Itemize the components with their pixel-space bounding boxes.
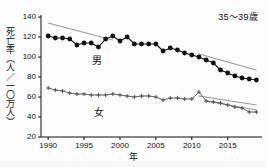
- data-point-female: [211, 100, 215, 104]
- mortality-rate-chart: 死亡率（人／一〇万人） 年 35〜39歳 男 女 204060801001201…: [0, 0, 266, 167]
- data-point-male: [46, 34, 51, 39]
- data-point-male: [103, 37, 108, 42]
- data-point-male: [96, 45, 101, 50]
- data-point-male: [204, 58, 209, 63]
- data-point-female: [53, 88, 57, 92]
- data-point-male: [247, 77, 252, 82]
- data-point-male: [240, 76, 245, 81]
- data-point-male: [232, 74, 237, 79]
- y-tick-label: 100: [14, 52, 36, 61]
- data-point-male: [211, 61, 216, 66]
- data-point-female: [96, 93, 100, 97]
- data-point-male: [82, 41, 87, 46]
- data-point-male: [153, 42, 158, 47]
- data-point-female: [60, 89, 64, 93]
- data-point-male: [146, 42, 151, 47]
- data-point-male: [60, 36, 65, 41]
- y-tick-label: 120: [14, 32, 36, 41]
- series-line-male: [48, 36, 256, 80]
- x-tick-label: 2005: [143, 141, 169, 150]
- data-point-female: [82, 92, 86, 96]
- page-edge-artifact: [0, 161, 266, 167]
- data-point-female: [125, 94, 129, 98]
- data-point-female: [132, 95, 136, 99]
- data-point-female: [154, 95, 158, 99]
- data-point-female: [168, 96, 172, 100]
- data-point-male: [218, 68, 223, 73]
- x-tick-label: 2015: [215, 141, 241, 150]
- data-point-female: [139, 94, 143, 98]
- data-point-male: [67, 37, 72, 42]
- y-tick-label: 60: [14, 92, 36, 101]
- data-point-female: [111, 92, 115, 96]
- data-point-female: [75, 92, 79, 96]
- data-point-female: [104, 93, 108, 97]
- y-tick-label: 20: [14, 132, 36, 141]
- trend-line-male-trend-late: [199, 54, 256, 70]
- y-tick-label: 140: [14, 12, 36, 21]
- x-tick-label: 2010: [179, 141, 205, 150]
- data-point-male: [89, 41, 94, 46]
- data-point-male: [197, 55, 202, 60]
- data-point-female: [218, 101, 222, 105]
- data-point-male: [132, 42, 137, 47]
- data-point-male: [110, 34, 115, 39]
- data-point-female: [226, 103, 230, 107]
- data-point-male: [118, 39, 123, 44]
- x-tick-label: 1990: [35, 141, 61, 150]
- data-point-male: [161, 49, 166, 54]
- data-point-male: [175, 48, 180, 53]
- y-tick-label: 40: [14, 112, 36, 121]
- x-tick-label: 2000: [107, 141, 133, 150]
- data-point-male: [182, 51, 187, 56]
- data-point-male: [75, 43, 80, 48]
- data-point-female: [183, 97, 187, 101]
- data-point-female: [161, 98, 165, 102]
- data-point-female: [240, 106, 244, 110]
- data-point-female: [175, 96, 179, 100]
- data-point-female: [46, 86, 50, 90]
- data-point-female: [147, 94, 151, 98]
- data-point-female: [89, 93, 93, 97]
- x-tick-label: 1995: [71, 141, 97, 150]
- y-tick-label: 80: [14, 72, 36, 81]
- data-point-female: [254, 110, 258, 114]
- data-point-female: [118, 93, 122, 97]
- data-point-male: [139, 42, 144, 47]
- data-point-female: [68, 91, 72, 95]
- data-point-male: [53, 36, 58, 41]
- data-point-male: [254, 78, 259, 83]
- data-point-male: [168, 46, 173, 51]
- data-point-male: [125, 35, 130, 40]
- data-point-male: [189, 53, 194, 58]
- data-point-male: [225, 71, 230, 76]
- data-point-female: [247, 110, 251, 114]
